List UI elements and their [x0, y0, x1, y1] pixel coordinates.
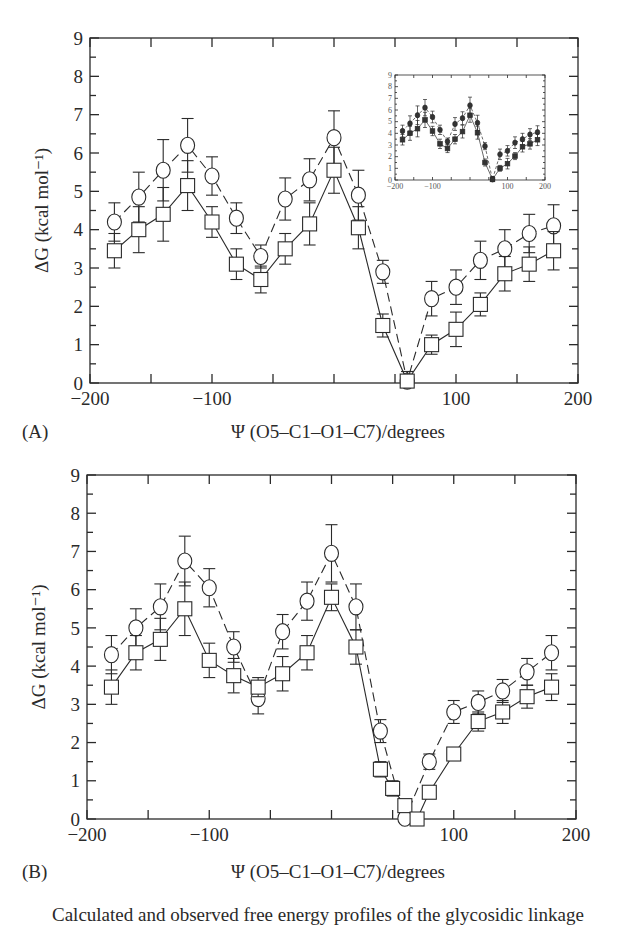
circle-marker	[425, 291, 439, 307]
square-marker	[415, 126, 420, 131]
circle-marker	[327, 130, 341, 146]
y-tick-label: 4	[74, 219, 84, 240]
square-marker	[483, 160, 488, 165]
square-marker	[425, 338, 439, 352]
circle-marker	[473, 252, 487, 268]
square-marker	[468, 113, 473, 118]
square-marker	[400, 374, 414, 388]
x-tick-label: −100	[190, 824, 229, 845]
circle-marker	[430, 114, 435, 119]
circle-marker	[513, 140, 518, 145]
circle-marker	[156, 162, 170, 178]
circle-marker	[278, 191, 292, 207]
square-marker	[156, 207, 170, 221]
square-marker	[205, 215, 219, 229]
y-tick-label: 4	[71, 656, 81, 677]
y-tick-label: 7	[74, 104, 84, 125]
circle-marker	[229, 210, 243, 226]
square-marker	[400, 137, 405, 142]
square-marker	[373, 762, 387, 776]
circle-marker	[445, 139, 450, 144]
square-marker	[104, 680, 118, 694]
circle-marker	[181, 137, 195, 153]
y-tick-label: 6	[388, 106, 392, 115]
x-tick-label: 200	[539, 182, 551, 191]
panel-label: (B)	[22, 861, 47, 883]
circle-marker	[528, 132, 533, 137]
y-axis-label: ΔG (kcal mol⁻¹)	[28, 584, 50, 709]
x-tick-label: −200	[70, 388, 109, 409]
y-tick-label: 5	[388, 117, 392, 126]
square-marker	[471, 715, 485, 729]
circle-marker	[408, 121, 413, 126]
square-marker	[460, 129, 465, 134]
circle-marker	[520, 664, 534, 680]
figure-caption: Calculated and observed free energy prof…	[52, 904, 584, 926]
square-marker	[505, 161, 510, 166]
circle-marker	[449, 279, 463, 295]
circle-marker	[129, 620, 143, 636]
x-tick-label: 100	[502, 182, 514, 191]
y-tick-label: 9	[74, 28, 84, 49]
y-tick-label: 1	[388, 164, 392, 173]
y-tick-label: 9	[71, 465, 81, 486]
circle-marker	[153, 599, 167, 615]
square-marker	[410, 812, 424, 826]
circle-marker	[475, 120, 480, 125]
square-marker	[475, 130, 480, 135]
square-marker	[303, 217, 317, 231]
square-marker	[447, 747, 461, 761]
square-marker	[251, 680, 265, 694]
x-tick-label: −100	[192, 388, 231, 409]
square-marker	[202, 653, 216, 667]
x-tick-label: 100	[440, 824, 469, 845]
x-tick-label: −200	[387, 182, 404, 191]
y-tick-label: 3	[388, 141, 392, 150]
circle-marker	[351, 187, 365, 203]
y-tick-label: 1	[74, 334, 84, 355]
square-marker	[398, 799, 412, 813]
x-tick-label: −200	[67, 824, 106, 845]
square-marker	[349, 640, 363, 654]
circle-marker	[227, 639, 241, 655]
x-tick-label: 200	[562, 824, 591, 845]
circle-marker	[349, 599, 363, 615]
square-marker	[376, 319, 390, 333]
square-marker	[522, 257, 536, 271]
square-marker	[327, 163, 341, 177]
square-marker	[513, 154, 518, 159]
square-marker	[430, 129, 435, 134]
square-marker	[445, 146, 450, 151]
y-tick-label: 5	[71, 618, 81, 639]
square-marker	[227, 669, 241, 683]
square-marker	[300, 646, 314, 660]
square-marker	[351, 221, 365, 235]
circle-marker	[453, 121, 458, 126]
circle-marker	[423, 105, 428, 110]
circle-marker	[438, 127, 443, 132]
square-marker	[178, 602, 192, 616]
circle-marker	[400, 128, 405, 133]
circle-marker	[373, 723, 387, 739]
square-marker	[438, 142, 443, 147]
x-tick-label: 100	[442, 388, 471, 409]
circle-marker	[522, 225, 536, 241]
square-marker	[528, 142, 533, 147]
y-tick-label: 6	[74, 143, 84, 164]
x-axis-label: Ψ (O5–C1–O1–C7)/degrees	[231, 861, 445, 883]
y-tick-label: 8	[388, 82, 392, 91]
panel-label: (A)	[22, 421, 48, 443]
square-marker	[278, 242, 292, 256]
square-marker	[107, 244, 121, 258]
chart-panel-a: 0123456789−200−100100200ΔG (kcal mol⁻¹)Ψ…	[22, 28, 592, 443]
square-marker	[545, 680, 559, 694]
y-tick-label: 1	[71, 770, 81, 791]
square-marker	[490, 177, 495, 182]
x-tick-label: −100	[424, 182, 441, 191]
circle-marker	[202, 580, 216, 596]
y-tick-label: 9	[388, 71, 392, 80]
chart-panel-b: 0123456789−200−100100200ΔG (kcal mol⁻¹)Ψ…	[22, 465, 590, 883]
y-tick-label: 3	[74, 258, 84, 279]
square-marker	[498, 267, 512, 281]
